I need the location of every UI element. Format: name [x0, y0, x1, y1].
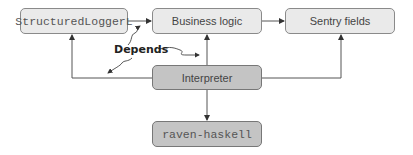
node-label: Business logic [172, 15, 242, 27]
node-business-logic: Business logic [152, 8, 262, 34]
edge-interpreter-to-logger [72, 35, 152, 78]
node-sentry-fields: Sentry fields [285, 8, 395, 34]
depends-annotation: Depends [114, 43, 168, 56]
node-structured-logger: StructuredLoggerL [20, 8, 128, 34]
node-interpreter: Interpreter [152, 65, 262, 90]
node-label: Interpreter [182, 72, 233, 84]
node-label: StructuredLoggerL [15, 15, 132, 28]
node-raven-haskell: raven-haskell [152, 121, 262, 147]
edge-interpreter-to-sentry [262, 35, 341, 78]
node-label: raven-haskell [162, 128, 252, 141]
node-label: Sentry fields [310, 15, 371, 27]
